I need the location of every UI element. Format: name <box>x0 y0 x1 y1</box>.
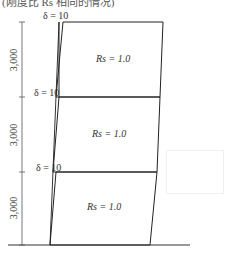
drift-label-top: δ = 10 <box>43 10 68 21</box>
height-label-bottom: 3,000 <box>8 197 19 220</box>
height-label-middle: 3,000 <box>8 124 19 147</box>
watermark <box>166 150 224 194</box>
stiffness-label-middle: Rs = 1.0 <box>91 128 126 139</box>
stiffness-label-bottom: Rs = 1.0 <box>86 201 121 212</box>
frame-drawing: δ = 10 δ = 10 δ = 10 Rs = 1.0 Rs = 1.0 R… <box>0 0 234 253</box>
story-drift-diagram: (刚度比 Rs 相同的情况) δ = 10 δ = 10 δ = 10 Rs =… <box>0 0 234 253</box>
figure-caption: (刚度比 Rs 相同的情况) <box>2 0 114 9</box>
height-label-top: 3,000 <box>8 49 19 72</box>
stiffness-label-top: Rs = 1.0 <box>95 53 130 64</box>
drift-label-bottom: δ = 10 <box>36 162 61 173</box>
undeformed-axis <box>50 22 59 245</box>
drift-label-middle: δ = 10 <box>34 87 59 98</box>
